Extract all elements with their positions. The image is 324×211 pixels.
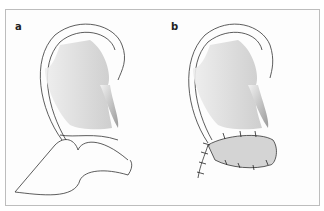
panel-a-concha [45, 40, 112, 129]
sutured-flap [208, 135, 276, 167]
panel-b-concha [193, 40, 262, 129]
ear-illustration [0, 0, 324, 211]
